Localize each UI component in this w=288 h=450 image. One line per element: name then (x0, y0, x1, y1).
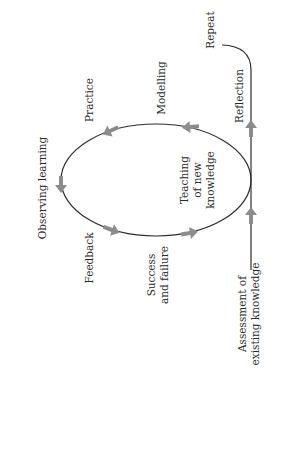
arrow-left-icon (182, 120, 200, 133)
arrow-right-icon (180, 226, 199, 241)
cycle-ellipse (61, 124, 251, 236)
label-assessment-line1: Assessment of (236, 275, 248, 353)
arrow-down-icon (55, 176, 67, 193)
arrow-up-icon (245, 207, 257, 224)
label-success-line1: Success (145, 254, 157, 297)
label-reflection: Reflection (233, 69, 245, 123)
label-teaching-line3: knowledge (204, 151, 216, 209)
label-teaching-line1: Teaching (178, 156, 190, 204)
arrow-left-icon (100, 122, 120, 140)
label-modelling: Modelling (155, 61, 167, 115)
label-observing-learning: Observing learning (36, 136, 48, 239)
label-assessment-line2: existing knowledge (249, 263, 261, 366)
label-teaching: Teaching of new knowledge (178, 151, 216, 209)
arrow-right-icon (101, 221, 121, 238)
label-success-failure: Success and failure (145, 246, 170, 304)
label-teaching-line2: of new (191, 162, 203, 198)
arrow-up-icon (245, 120, 257, 137)
teaching-cycle-diagram: Repeat Reflection Modelling Practice Obs… (0, 0, 288, 450)
label-feedback: Feedback (83, 232, 95, 284)
label-assessment: Assessment of existing knowledge (236, 263, 261, 366)
label-practice: Practice (83, 78, 95, 122)
label-success-line2: and failure (158, 246, 170, 304)
label-repeat: Repeat (204, 10, 216, 48)
